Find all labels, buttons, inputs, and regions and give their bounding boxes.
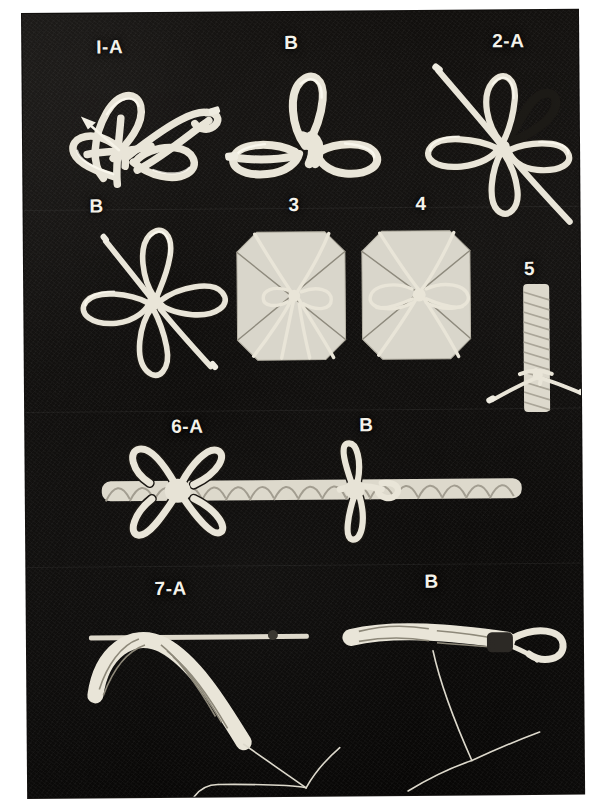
figure-4 [354,222,500,368]
photograph: I-A [22,10,584,798]
loose-strands-7a [194,744,340,797]
knot-centre [147,294,162,309]
knot-diagram-1b [208,59,389,190]
figure-caption-3: 3 [288,194,299,216]
figure-5 [479,282,584,415]
figure-caption-7a: 7-A [154,578,186,600]
figure-1b [208,59,389,190]
figure-caption-1b: B [284,32,298,54]
knot-diagram-2a [412,58,584,219]
braided-cord-7b [351,625,563,661]
splice-diagram-7b [337,602,585,798]
rope-body [102,478,522,501]
knot-diagram-1a [40,57,231,193]
rod-diagram-5 [479,282,584,415]
knot-centre [496,140,510,154]
figure-2b [64,212,255,393]
figure-caption-1a: I-A [96,36,123,58]
splice-diagram-7a [77,607,368,798]
braided-cord-7a [95,638,244,743]
figure-7a [77,607,368,798]
figure-1a [40,57,231,193]
figure-6 [95,438,526,551]
cord-end [225,152,239,161]
bow-knot-6a [165,479,191,503]
figure-caption-5: 5 [524,258,535,280]
loose-strands-7b [407,650,540,791]
rod-knot [533,370,543,380]
figure-caption-2a: 2-A [492,30,524,52]
emulsion-seam [26,563,582,568]
figure-caption-6b: B [359,414,373,436]
figure-2a [412,58,584,219]
package-knot [413,288,426,301]
package-diagram-4 [354,222,500,368]
splice-shadow [487,632,513,652]
figure-caption-7b: B [424,571,438,593]
package-knot [288,290,300,302]
knot-diagram-2b [64,212,255,393]
rope-diagram-6 [95,438,526,551]
figure-caption-4: 4 [415,193,426,215]
figure-caption-6a: 6-A [171,416,203,438]
cord-end [485,394,497,404]
bow-knot-6b [345,479,365,499]
figure-7b [337,602,585,798]
photo-plate: I-A [0,0,598,811]
